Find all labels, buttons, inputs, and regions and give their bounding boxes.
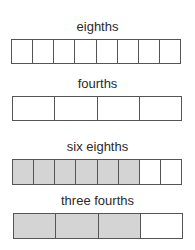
empty-cell: [13, 97, 55, 120]
label-three-fourths: three fourths: [0, 194, 195, 208]
shaded-cell: [55, 160, 76, 184]
label-eighths: eighths: [0, 20, 195, 34]
shaded-cell: [34, 160, 55, 184]
empty-cell: [161, 160, 181, 184]
shaded-cell: [76, 160, 97, 184]
empty-cell: [75, 40, 96, 63]
shaded-cell: [14, 214, 56, 238]
empty-cell: [140, 160, 161, 184]
empty-cell: [160, 40, 180, 63]
shaded-cell: [98, 160, 119, 184]
empty-cell: [98, 97, 140, 120]
empty-cell: [33, 40, 54, 63]
bar-eighths: [11, 39, 181, 64]
empty-cell: [54, 40, 75, 63]
shaded-cell: [56, 214, 98, 238]
empty-cell: [140, 97, 181, 120]
empty-cell: [141, 214, 182, 238]
shaded-cell: [99, 214, 141, 238]
label-six-eighths: six eighths: [0, 140, 195, 154]
empty-cell: [118, 40, 139, 63]
empty-cell: [97, 40, 118, 63]
empty-cell: [55, 97, 97, 120]
bar-six-eighths: [12, 159, 182, 185]
shaded-cell: [119, 160, 140, 184]
bar-fourths: [12, 96, 182, 121]
shaded-cell: [13, 160, 34, 184]
bar-three-fourths: [13, 213, 183, 239]
empty-cell: [12, 40, 33, 63]
label-fourths: fourths: [0, 77, 195, 91]
empty-cell: [139, 40, 160, 63]
